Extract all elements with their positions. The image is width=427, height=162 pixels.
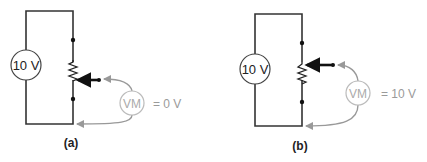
meter-reading-b: = 10 V xyxy=(381,87,416,101)
panel-b: 10 V VM = 10 V (b) xyxy=(240,14,416,153)
caption-b: (b) xyxy=(292,139,307,153)
panel-a: 10 V VM = 0 V (a) xyxy=(11,11,181,150)
source-label-b: 10 V xyxy=(242,62,269,77)
potentiometer-diagram: 10 V VM = 0 V (a) 10 V xyxy=(0,0,427,162)
meter-lead-top-b xyxy=(338,65,358,81)
source-label-a: 10 V xyxy=(13,58,40,73)
terminal-dot-top-a xyxy=(71,38,75,42)
wiper-dot-b xyxy=(331,63,335,67)
wiper-dot-a xyxy=(97,78,101,82)
caption-a: (a) xyxy=(64,136,79,150)
meter-label-a: VM xyxy=(123,97,141,111)
voltage-source-b: 10 V xyxy=(240,54,270,84)
resistor-icon-a xyxy=(69,60,77,81)
voltage-source-a: 10 V xyxy=(11,50,41,80)
meter-lead-bottom-b xyxy=(306,105,358,126)
voltmeter-a: VM xyxy=(120,91,144,115)
meter-label-b: VM xyxy=(349,87,367,101)
terminal-dot-bottom-b xyxy=(300,100,304,104)
voltmeter-b: VM xyxy=(346,81,370,105)
resistor-icon-b xyxy=(298,62,306,84)
meter-lead-top-a xyxy=(104,79,132,91)
terminal-dot-top-b xyxy=(300,41,304,45)
meter-reading-a: = 0 V xyxy=(153,97,181,111)
meter-lead-bottom-a xyxy=(77,115,132,124)
terminal-dot-bottom-a xyxy=(71,97,75,101)
